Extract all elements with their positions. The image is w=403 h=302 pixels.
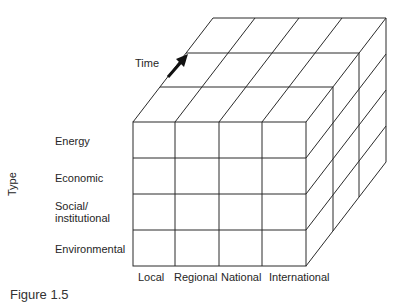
column-label-regional: Regional — [174, 271, 217, 283]
type-axis-label: Type — [6, 172, 18, 196]
row-label-social-line2: institutional — [55, 212, 110, 224]
row-label-economic: Economic — [55, 172, 103, 184]
column-label-local: Local — [138, 271, 164, 283]
figure-caption: Figure 1.5 — [10, 287, 69, 302]
column-label-international: International — [269, 271, 330, 283]
column-label-national: National — [221, 271, 261, 283]
row-label-environmental: Environmental — [55, 243, 125, 255]
row-label-social-line1: Social/ — [55, 200, 88, 212]
time-axis-label: Time — [135, 57, 159, 69]
time-arrow-icon — [168, 54, 188, 77]
row-label-energy: Energy — [55, 135, 90, 147]
